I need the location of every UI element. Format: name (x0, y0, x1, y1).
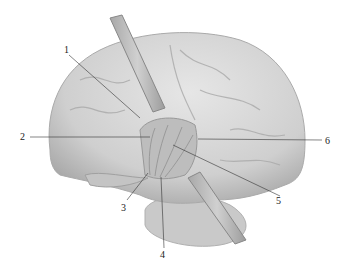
label-4: 4 (160, 250, 165, 260)
brain-illustration (0, 0, 351, 279)
label-3: 3 (121, 203, 126, 213)
label-1: 1 (64, 45, 69, 55)
label-6: 6 (325, 136, 330, 146)
insula (140, 118, 197, 179)
label-5: 5 (276, 196, 281, 206)
label-2: 2 (20, 132, 25, 142)
brain-diagram: 1 2 3 4 5 6 (0, 0, 351, 279)
